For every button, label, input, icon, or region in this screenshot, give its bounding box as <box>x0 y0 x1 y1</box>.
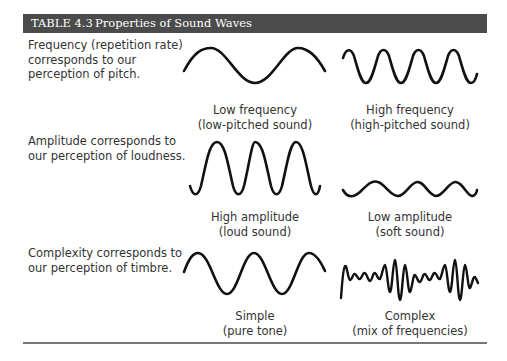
caption-low-frequency: Low frequency (low-pitched sound) <box>180 103 330 133</box>
caption-label: Complex <box>335 309 485 324</box>
caption-label: Simple <box>180 309 330 324</box>
caption-simple: Simple (pure tone) <box>180 309 330 339</box>
waveform-illustrations <box>0 0 507 361</box>
caption-sublabel: (loud sound) <box>180 225 330 240</box>
caption-label: Low amplitude <box>335 210 485 225</box>
simple-wave-icon <box>184 253 325 294</box>
high-frequency-wave-icon <box>343 50 477 83</box>
complex-wave-icon <box>341 260 478 300</box>
caption-sublabel: (low-pitched sound) <box>180 118 330 133</box>
high-amplitude-wave-icon <box>190 142 320 194</box>
caption-label: High frequency <box>335 103 485 118</box>
caption-sublabel: (pure tone) <box>180 324 330 339</box>
caption-complex: Complex (mix of frequencies) <box>335 309 485 339</box>
caption-high-frequency: High frequency (high-pitched sound) <box>335 103 485 133</box>
low-frequency-wave-icon <box>184 48 325 83</box>
caption-sublabel: (high-pitched sound) <box>335 118 485 133</box>
caption-sublabel: (soft sound) <box>335 225 485 240</box>
caption-sublabel: (mix of frequencies) <box>335 324 485 339</box>
caption-low-amplitude: Low amplitude (soft sound) <box>335 210 485 240</box>
caption-high-amplitude: High amplitude (loud sound) <box>180 210 330 240</box>
low-amplitude-wave-icon <box>343 181 477 196</box>
bottom-rule <box>23 342 487 344</box>
caption-label: Low frequency <box>180 103 330 118</box>
caption-label: High amplitude <box>180 210 330 225</box>
